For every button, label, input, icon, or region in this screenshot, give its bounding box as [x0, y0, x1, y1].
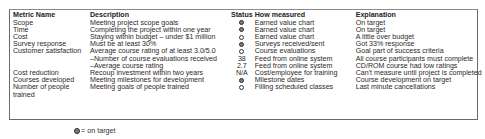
filled-circle-icon: [239, 20, 244, 25]
table-header-row: Metric Name Description Status How measu…: [13, 12, 482, 20]
table-row: ScopeMeeting project scope goalsEarned v…: [13, 20, 482, 27]
status-cell: [231, 41, 253, 48]
how-measured-cell: [253, 92, 353, 99]
table-row: Number of peopleMeeting goals of people …: [13, 84, 482, 91]
status-cell: N/A: [231, 70, 253, 77]
metric-name-cell: trained: [13, 92, 90, 99]
legend-label: = on target: [81, 126, 116, 135]
empty-circle-icon: [239, 35, 244, 40]
description-cell: Meeting goals of people trained: [90, 84, 231, 91]
metric-name-cell: [13, 56, 90, 63]
how-measured-cell: Filling scheduled classes: [253, 84, 353, 91]
status-cell: [231, 77, 253, 84]
description-cell: [90, 92, 231, 99]
status-cell: [231, 34, 253, 41]
explanation-cell: [353, 92, 482, 99]
filled-circle-icon: [239, 27, 244, 32]
explanation-cell: Last minute cancellations: [353, 84, 482, 91]
status-legend: = on target: [74, 126, 116, 135]
project-metrics-table: Metric Name Description Status How measu…: [13, 12, 482, 99]
empty-circle-icon: [239, 85, 244, 90]
filled-circle-icon: [74, 128, 80, 134]
status-cell: [231, 84, 253, 91]
filled-circle-icon: [239, 42, 244, 47]
status-cell: [231, 92, 253, 99]
table-row: trained: [13, 92, 482, 99]
status-cell: [231, 20, 253, 27]
empty-circle-icon: [239, 49, 244, 54]
header-status: Status: [231, 12, 253, 20]
filled-circle-icon: [239, 78, 244, 83]
metric-name-cell: Customer satisfaction: [13, 48, 90, 55]
status-cell: [231, 27, 253, 34]
